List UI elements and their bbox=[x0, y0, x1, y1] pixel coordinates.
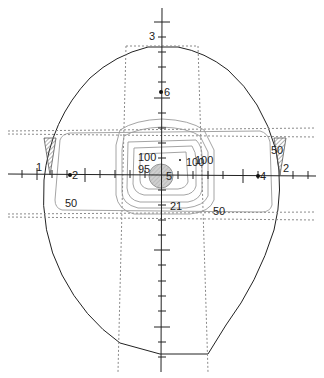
hotspot-marker bbox=[179, 159, 181, 161]
axes bbox=[8, 8, 316, 372]
axis-label-right: 2 bbox=[283, 162, 289, 174]
isodose-diagram: 3 1 2 6 2 4 5 100 95 100 100 21 50 50 50 bbox=[0, 0, 324, 378]
point-label-5: 5 bbox=[166, 170, 172, 182]
point-label-4: 4 bbox=[260, 170, 266, 182]
isodose-label-50-bottom-right: 50 bbox=[213, 205, 225, 217]
point-6-marker bbox=[159, 90, 163, 94]
point-label-6: 6 bbox=[164, 86, 170, 98]
isodose-label-21: 21 bbox=[170, 200, 182, 212]
point-label-2: 2 bbox=[72, 169, 78, 181]
axis-label-left: 1 bbox=[36, 161, 42, 173]
isodose-label-100-right-b: 100 bbox=[195, 154, 213, 166]
isodose-label-50-left: 50 bbox=[65, 197, 77, 209]
axis-label-top: 3 bbox=[149, 30, 155, 42]
isodose-label-50-right-wedge: 50 bbox=[271, 144, 283, 156]
isodose-label-95: 95 bbox=[138, 163, 150, 175]
isodose-label-100-center: 100 bbox=[138, 151, 156, 163]
